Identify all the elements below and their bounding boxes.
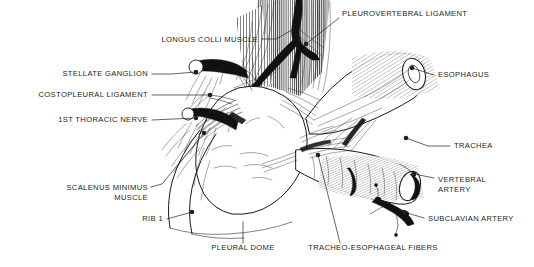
label-esophagus: ESOPHAGUS: [438, 70, 489, 79]
leader-dot-costopleural-ligament: [208, 93, 213, 98]
label-scalenus-minimus-muscle: SCALENUS MINIMUS: [66, 183, 148, 192]
leader-dot-trachea: [404, 136, 409, 141]
label-subclavian-artery: SUBCLAVIAN ARTERY: [428, 214, 514, 223]
leader-dot-esophagus: [410, 66, 415, 71]
label-pleural-dome: PLEURAL DOME: [211, 243, 274, 252]
leader-dot-tracheo-esophageal-fibers: [316, 153, 321, 158]
leader-dot-stellate-ganglion: [194, 70, 199, 75]
label-costopleural-ligament: COSTOPLEURAL LIGAMENT: [39, 90, 148, 99]
label-stellate-ganglion: STELLATE GANGLION: [62, 69, 148, 78]
label-vertebral-artery-line2: ARTERY: [438, 185, 471, 194]
leader-dot-scalenus-minimus-muscle: [202, 131, 207, 136]
leader-dot-vertebral-artery: [412, 172, 417, 177]
label-first-thoracic-nerve: 1ST THORACIC NERVE: [58, 115, 148, 124]
label-pleurovertebral-ligament: PLEUROVERTEBRAL LIGAMENT: [342, 9, 467, 18]
label-scalenus-minimus-muscle-line2: MUSCLE: [114, 193, 148, 202]
label-tracheo-esophageal-fibers: TRACHEO-ESOPHAGEAL FIBERS: [308, 243, 438, 252]
leader-dot-first-thoracic-nerve: [194, 116, 199, 121]
label-vertebral-artery: VERTEBRAL: [438, 175, 486, 184]
label-longus-colli-muscle: LONGUS COLLI MUSCLE: [161, 35, 258, 44]
leader-dot-rib-1: [190, 210, 195, 215]
label-rib-1: RIB 1: [142, 214, 163, 223]
label-trachea: TRACHEA: [454, 141, 493, 150]
anatomical-figure: LONGUS COLLI MUSCLEPLEUROVERTEBRAL LIGAM…: [0, 0, 534, 267]
leader-dot-pleurovertebral-ligament: [304, 42, 309, 47]
illustration-canvas: LONGUS COLLI MUSCLEPLEUROVERTEBRAL LIGAM…: [0, 0, 534, 267]
leader-dot-subclavian-artery: [402, 210, 407, 215]
